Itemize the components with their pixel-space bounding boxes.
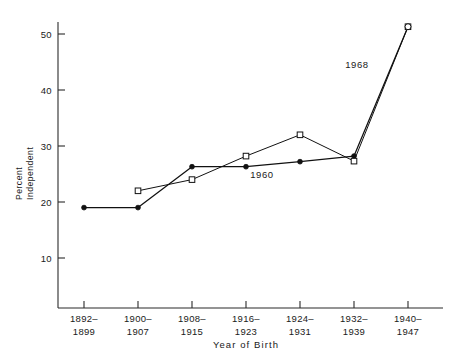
x-axis-title: Year of Birth — [213, 339, 279, 350]
data-point-1960 — [82, 205, 87, 210]
y-tick-label: 20 — [41, 197, 52, 208]
y-axis-title-line2: Independent — [25, 147, 35, 200]
y-tick-label: 50 — [41, 29, 52, 40]
y-tick-label: 30 — [41, 141, 52, 152]
x-tick-label-bottom: 1907 — [127, 326, 149, 337]
y-axis-title-line1: Percent — [14, 167, 24, 200]
x-tick-label-bottom: 1931 — [289, 326, 311, 337]
data-point-1960 — [190, 164, 195, 169]
series-annotation-1960: 1960 — [250, 169, 274, 180]
x-tick-label-top: 1916– — [232, 313, 260, 324]
series-line-1968 — [138, 27, 408, 191]
data-point-1968 — [297, 132, 303, 138]
data-point-1968 — [243, 153, 249, 159]
data-point-1960 — [136, 205, 141, 210]
x-tick-label-bottom: 1939 — [343, 326, 365, 337]
x-tick-label-top: 1892– — [70, 313, 98, 324]
x-tick-label-bottom: 1947 — [397, 326, 419, 337]
series-line-1960 — [84, 27, 408, 208]
data-point-1968-end — [405, 24, 411, 30]
line-chart-figure: 1020304050PercentIndependent1892–1899190… — [0, 0, 451, 357]
x-tick-label-top: 1900– — [124, 313, 152, 324]
x-tick-label-bottom: 1899 — [73, 326, 95, 337]
x-tick-label-bottom: 1923 — [235, 326, 257, 337]
x-tick-label-bottom: 1915 — [181, 326, 203, 337]
x-tick-label-top: 1940– — [394, 313, 422, 324]
y-tick-label: 40 — [41, 85, 52, 96]
data-point-1968 — [135, 188, 141, 194]
x-tick-label-top: 1932– — [340, 313, 368, 324]
x-tick-label-top: 1908– — [178, 313, 206, 324]
series-annotation-1968: 1968 — [345, 59, 369, 70]
y-tick-label: 10 — [41, 253, 52, 264]
data-point-1968 — [189, 177, 195, 183]
x-tick-label-top: 1924– — [286, 313, 314, 324]
data-point-1960 — [298, 159, 303, 164]
chart-svg: 1020304050PercentIndependent1892–1899190… — [0, 0, 451, 357]
data-point-1968 — [351, 158, 357, 164]
data-point-1960 — [244, 164, 249, 169]
